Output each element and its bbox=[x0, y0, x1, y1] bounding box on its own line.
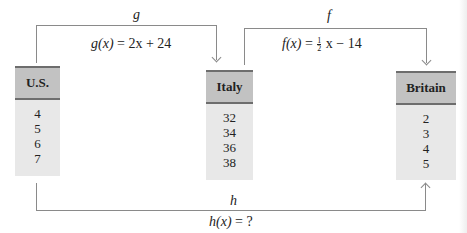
node-italy-values: 32 34 36 38 bbox=[206, 104, 253, 170]
node-britain-values: 2 3 4 5 bbox=[396, 105, 456, 171]
fraction-denominator: 2 bbox=[317, 45, 321, 52]
formula-name: g(x) bbox=[91, 36, 114, 51]
node-us-header: U.S. bbox=[15, 66, 60, 100]
node-italy: Italy 32 34 36 38 bbox=[206, 70, 253, 180]
node-britain-header: Britain bbox=[396, 71, 456, 105]
page-edge-shade bbox=[459, 0, 467, 233]
formula-rhs: = 2x + 24 bbox=[117, 36, 171, 51]
value-item: 3 bbox=[396, 126, 456, 141]
arrow-down-icon bbox=[422, 56, 432, 66]
value-item: 2 bbox=[396, 111, 456, 126]
value-item: 32 bbox=[206, 110, 253, 125]
fraction: 1 2 bbox=[317, 37, 321, 52]
arrow-up-icon bbox=[421, 183, 431, 193]
value-item: 34 bbox=[206, 125, 253, 140]
arrow-down-icon bbox=[212, 53, 222, 63]
edge-h-down-segment bbox=[36, 183, 37, 211]
node-britain: Britain 2 3 4 5 bbox=[396, 71, 456, 180]
value-item: 5 bbox=[15, 121, 60, 136]
value-item: 6 bbox=[15, 136, 60, 151]
node-us-values: 4 5 6 7 bbox=[15, 100, 60, 166]
value-item: 4 bbox=[15, 106, 60, 121]
formula-rhs: = ? bbox=[235, 214, 253, 229]
edge-f-label: f bbox=[327, 8, 331, 24]
formula-rhs: x − 14 bbox=[326, 36, 362, 51]
edge-g-up-segment bbox=[36, 25, 37, 63]
edge-g-label: g bbox=[133, 7, 140, 23]
edge-f-up-segment bbox=[244, 28, 245, 65]
edge-g-top-segment bbox=[36, 25, 217, 26]
value-item: 38 bbox=[206, 155, 253, 170]
value-item: 7 bbox=[15, 151, 60, 166]
edge-g-formula: g(x) = 2x + 24 bbox=[91, 36, 171, 52]
value-item: 4 bbox=[396, 141, 456, 156]
edge-h-formula: h(x) = ? bbox=[209, 214, 253, 230]
node-italy-header: Italy bbox=[206, 70, 253, 104]
formula-name: h(x) bbox=[209, 214, 232, 229]
formula-equals: = bbox=[305, 36, 313, 51]
edge-h-label: h bbox=[230, 193, 237, 209]
edge-f-formula: f(x) = 1 2 x − 14 bbox=[282, 36, 362, 52]
node-us: U.S. 4 5 6 7 bbox=[15, 66, 60, 176]
formula-name: f(x) bbox=[282, 36, 301, 51]
value-item: 5 bbox=[396, 156, 456, 171]
value-item: 36 bbox=[206, 140, 253, 155]
edge-f-top-segment bbox=[244, 28, 427, 29]
edge-h-bottom-segment bbox=[36, 210, 426, 211]
